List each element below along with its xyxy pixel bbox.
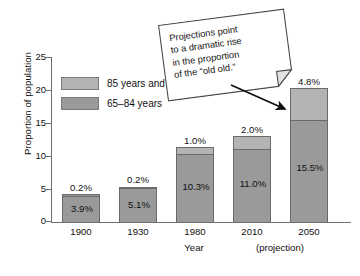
bar-group-1980: 10.3% 1.0% (176, 146, 214, 222)
y-tick-10 (46, 156, 51, 157)
bar-label-85-plus-1930: 0.2% (113, 174, 163, 185)
y-tick-15 (46, 123, 51, 124)
bar-label-65-84-1980: 10.3% (177, 181, 215, 192)
legend-swatch-85-plus (61, 77, 99, 90)
y-tick-label-0: 0 (18, 216, 46, 226)
legend-label-65-84: 65–84 years (107, 97, 162, 110)
x-tick-label-2010: 2010 (224, 226, 280, 237)
bar-label-65-84-1930: 5.1% (120, 199, 158, 210)
bar-group-1900: 3.9% 0.2% (62, 195, 100, 222)
y-tick-5 (46, 189, 51, 190)
bar-segment-65-84-2050: 15.5% (290, 120, 328, 222)
legend-swatch-65-84 (61, 97, 99, 110)
x-tick-label-1930: 1930 (110, 226, 166, 237)
bar-label-85-plus-1900: 0.2% (56, 182, 106, 193)
x-tick-label-1900: 1900 (53, 226, 109, 237)
bar-group-1930: 5.1% 0.2% (119, 187, 157, 222)
y-axis-title: Proportion of population (22, 29, 33, 179)
bar-segment-85-plus-1980 (176, 147, 214, 154)
bar-segment-85-plus-1930 (119, 187, 157, 188)
bar-segment-85-plus-1900 (62, 194, 100, 195)
x-axis-title: Year (166, 242, 222, 253)
y-tick-20 (46, 90, 51, 91)
bar-label-65-84-2050: 15.5% (291, 162, 329, 173)
annotation-arrow-icon (228, 82, 298, 116)
bar-segment-85-plus-2010 (233, 136, 271, 149)
bar-label-85-plus-2010: 2.0% (227, 124, 277, 135)
y-axis-line (51, 57, 52, 222)
bar-label-65-84-2010: 11.0% (234, 178, 272, 189)
chart-canvas: 25 20 15 10 5 0 Proportion of population… (0, 0, 360, 276)
x-tick-label-1980: 1980 (167, 226, 223, 237)
x-axis-line (51, 222, 351, 223)
bar-label-65-84-1900: 3.9% (63, 203, 101, 214)
x-tick-label-2050: 2050 (281, 226, 337, 237)
bar-segment-65-84-2010: 11.0% (233, 149, 271, 221)
bar-segment-65-84-1980: 10.3% (176, 154, 214, 222)
y-tick-label-5-wrap: 5 (0, 184, 46, 194)
y-tick-label-0-wrap: 0 (0, 216, 46, 226)
y-tick-25 (46, 57, 51, 58)
projection-note-label: (projection) (232, 242, 328, 253)
bar-segment-65-84-1930: 5.1% (119, 188, 157, 222)
y-tick-0 (46, 221, 51, 222)
bar-segment-65-84-1900: 3.9% (62, 196, 100, 222)
bar-label-85-plus-1980: 1.0% (170, 135, 220, 146)
y-tick-label-5: 5 (18, 184, 46, 194)
bar-group-2010: 11.0% 2.0% (233, 135, 271, 222)
